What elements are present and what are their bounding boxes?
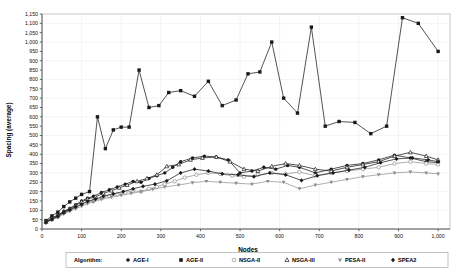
x-tick-label: 900 [394, 233, 403, 239]
y-tick-label: 550 [29, 123, 38, 129]
legend-label: NSGA-III [292, 257, 315, 263]
x-tick-label: 400 [196, 233, 205, 239]
legend-item-spea2[interactable]: SPEA2 [391, 257, 416, 263]
series-spea2 [44, 156, 440, 225]
legend-label: AGE-II [186, 257, 204, 263]
y-tick-label: 900 [29, 58, 38, 64]
y-tick-label: 800 [29, 76, 38, 82]
y-axis-title: Spacing (average) [5, 102, 13, 157]
y-tick-label: 1,000 [25, 39, 38, 45]
y-tick-label: 600 [29, 114, 38, 120]
legend-label: SPEA2 [398, 257, 416, 263]
x-tick-label: 500 [236, 233, 245, 239]
y-tick-label: 1,100 [25, 20, 38, 26]
y-tick-label: 950 [29, 48, 38, 54]
y-axis-ticks: 0501001502002503003504004505005506006507… [25, 11, 42, 232]
x-tick-label: 0 [41, 233, 44, 239]
x-tick-label: 700 [315, 233, 324, 239]
y-tick-label: 200 [29, 189, 38, 195]
data-series-group [44, 16, 440, 225]
y-tick-label: 100 [29, 207, 38, 213]
y-tick-label: 1,150 [25, 11, 38, 17]
x-tick-label: 100 [77, 233, 86, 239]
x-tick-label: 600 [275, 233, 284, 239]
legend-label: NSGA-II [239, 257, 261, 263]
x-axis-ticks: 01002003004005006007008009001,000 [41, 229, 445, 239]
x-tick-label: 200 [117, 233, 126, 239]
chart-canvas: 0501001502002503003504004505005506006507… [0, 0, 461, 274]
chart-legend: Algorithm:AGE-IAGE-IINSGA-IINSGA-IIIPESA… [66, 253, 448, 268]
x-axis-title: Nodes [238, 246, 258, 253]
x-tick-label: 1,000 [432, 233, 445, 239]
x-tick-label: 300 [157, 233, 166, 239]
spacing-average-line-chart: 0501001502002503003504004505005506006507… [0, 0, 461, 274]
y-tick-label: 150 [29, 198, 38, 204]
x-tick-label: 800 [355, 233, 364, 239]
y-tick-label: 1,050 [25, 30, 38, 36]
y-tick-label: 250 [29, 179, 38, 185]
y-tick-label: 650 [29, 104, 38, 110]
legend-item-nsga-ii[interactable]: NSGA-II [232, 257, 260, 263]
y-tick-label: 850 [29, 67, 38, 73]
y-tick-label: 750 [29, 86, 38, 92]
legend-item-nsga-iii[interactable]: NSGA-III [285, 257, 315, 263]
legend-item-age-ii[interactable]: AGE-II [179, 257, 203, 263]
y-tick-label: 0 [35, 226, 38, 232]
y-tick-label: 50 [32, 217, 38, 223]
y-tick-label: 300 [29, 170, 38, 176]
y-tick-label: 350 [29, 160, 38, 166]
legend-item-age-i[interactable]: AGE-I [126, 257, 149, 263]
legend-title: Algorithm: [74, 257, 102, 263]
legend-item-pesa-ii[interactable]: PESA-II [338, 257, 366, 263]
y-tick-label: 700 [29, 95, 38, 101]
y-tick-label: 450 [29, 142, 38, 148]
legend-label: PESA-II [345, 257, 366, 263]
y-tick-label: 400 [29, 151, 38, 157]
y-tick-label: 500 [29, 132, 38, 138]
legend-label: AGE-I [133, 257, 149, 263]
